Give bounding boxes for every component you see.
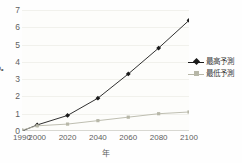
y-tick-label: 4 [2, 58, 20, 67]
legend-marker-icon [188, 69, 204, 79]
legend-label: 最低予測 [206, 70, 234, 78]
x-axis-tick-labels: 1990200020202040206020802100 [22, 134, 189, 146]
series-plot [22, 10, 189, 131]
data-point-marker [65, 113, 70, 118]
series-line [22, 112, 189, 130]
data-point-marker [36, 124, 39, 127]
x-tick-label: 2080 [150, 134, 168, 142]
y-tick-label: 5 [2, 40, 20, 49]
x-tick-label: 2040 [89, 134, 107, 142]
y-tick-label: 1 [2, 109, 20, 118]
data-point-marker [22, 129, 24, 131]
y-tick-label: 2 [2, 92, 20, 101]
y-tick-label: 6 [2, 23, 20, 32]
data-point-marker [157, 112, 160, 115]
data-point-marker [96, 119, 99, 122]
legend-dot-icon [194, 71, 199, 76]
data-point-marker [66, 122, 69, 125]
legend-item[interactable]: 最低予測 [188, 68, 242, 80]
series-line [22, 20, 189, 131]
x-tick-label: 2060 [119, 134, 137, 142]
legend-label: 最高予測 [206, 58, 234, 66]
data-point-marker [187, 110, 189, 113]
y-tick-label: 7 [2, 6, 20, 15]
legend-dot-icon [193, 58, 200, 65]
x-axis-title: 年 [22, 147, 189, 158]
data-point-marker [127, 116, 130, 119]
temperature-forecast-chart: 01234567 ℃ 1990200020202040206020802100 … [0, 0, 242, 163]
x-tick-label: 2020 [59, 134, 77, 142]
plot-area [22, 10, 189, 131]
legend-marker-icon [188, 57, 204, 67]
y-tick-label: 3 [2, 75, 20, 84]
chart-legend: 最高予測最低予測 [188, 56, 242, 80]
x-tick-label: 2100 [180, 134, 198, 142]
y-axis-title: ℃ [0, 64, 4, 72]
legend-item[interactable]: 最高予測 [188, 56, 242, 68]
x-tick-label: 2000 [28, 134, 46, 142]
